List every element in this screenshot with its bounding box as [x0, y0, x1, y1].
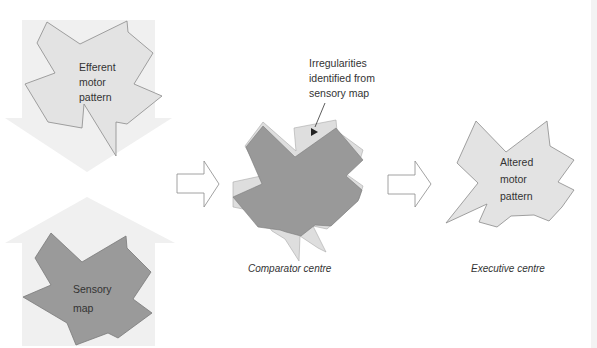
right-arrow-to-comparator: [177, 161, 219, 207]
altered-motor-pattern-label: Altered motor pattern: [500, 154, 533, 205]
altered-line-2: motor: [500, 171, 533, 188]
efferent-motor-pattern-label: Efferent motor pattern: [79, 60, 116, 105]
altered-line-3: pattern: [500, 188, 533, 205]
efferent-line-1: Efferent: [79, 60, 116, 75]
executive-centre-caption: Executive centre: [471, 263, 545, 274]
efferent-line-3: pattern: [79, 90, 116, 105]
sensory-line-2: map: [73, 299, 112, 318]
sensory-line-1: Sensory: [73, 280, 112, 299]
comparator-centre-caption: Comparator centre: [248, 263, 331, 274]
irregularities-line-2: identified from: [309, 71, 375, 86]
sensory-map-label: Sensory map: [73, 280, 112, 318]
page-edge-strip: [591, 0, 597, 348]
altered-line-1: Altered: [500, 154, 533, 171]
irregularities-line-1: Irregularities: [309, 56, 375, 71]
efferent-line-2: motor: [79, 75, 116, 90]
irregularities-label: Irregularities identified from sensory m…: [309, 56, 375, 101]
irregularities-line-3: sensory map: [309, 86, 375, 101]
right-arrow-to-executive: [388, 161, 431, 207]
